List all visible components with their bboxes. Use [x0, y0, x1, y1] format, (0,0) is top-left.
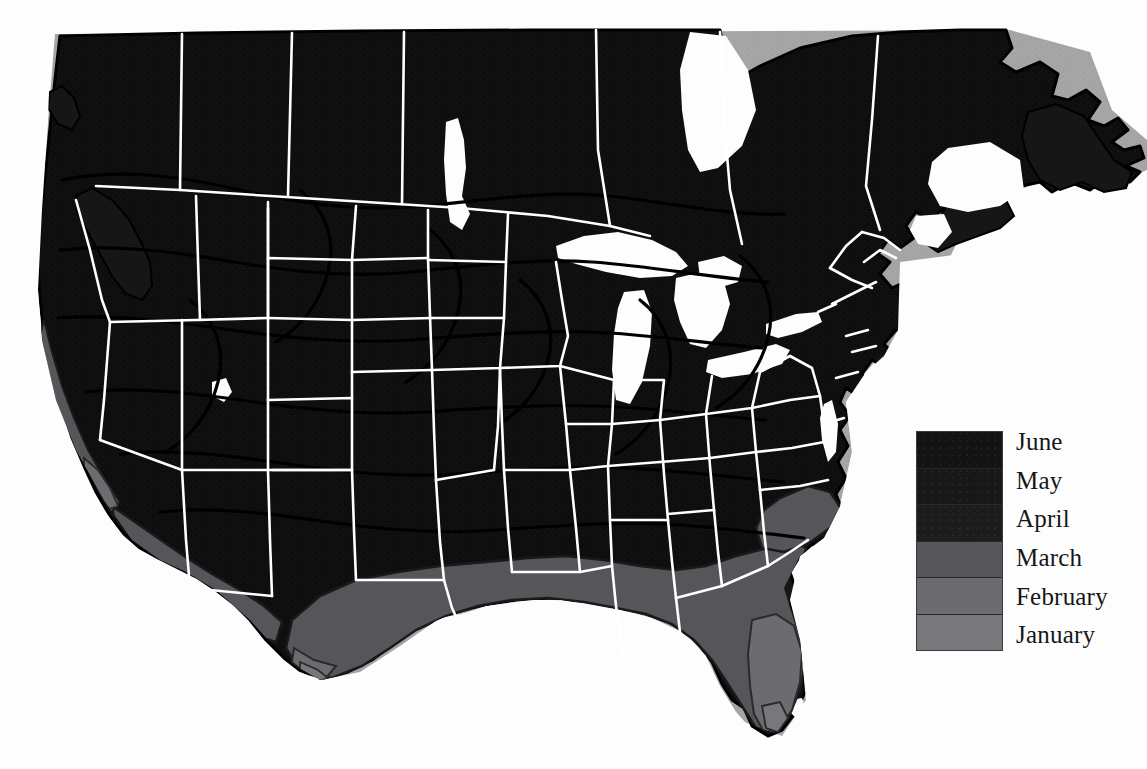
- map-graphic: [0, 0, 1147, 769]
- legend-label-april: April: [1016, 499, 1147, 538]
- map-figure: [0, 0, 1147, 769]
- legend-label-january: January: [1016, 615, 1147, 654]
- legend-swatch-june: [917, 432, 1002, 468]
- legend-swatch-january: [917, 614, 1002, 651]
- month-legend: June May April March February January: [916, 431, 1126, 653]
- legend-label-may: May: [1016, 461, 1147, 500]
- legend-swatch-column: [916, 431, 1003, 651]
- legend-swatch-may: [917, 468, 1002, 505]
- legend-swatch-march: [917, 541, 1002, 578]
- legend-label-february: February: [1016, 577, 1147, 616]
- legend-label-march: March: [1016, 538, 1147, 577]
- legend-swatch-february: [917, 577, 1002, 614]
- legend-label-column: June May April March February January: [1016, 422, 1147, 654]
- legend-label-june: June: [1016, 422, 1147, 461]
- screenshot-canvas: June May April March February January: [0, 0, 1147, 769]
- legend-swatch-april: [917, 504, 1002, 541]
